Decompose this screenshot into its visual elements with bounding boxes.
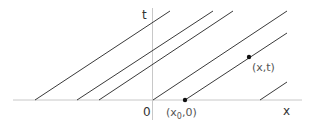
characteristic-line — [77, 11, 213, 100]
characteristic-line — [99, 11, 233, 100]
point-x0-label: (x0,0) — [166, 106, 197, 121]
diagram-canvas: t x 0 (x0,0) (x,t) — [0, 0, 309, 128]
origin-label: 0 — [143, 105, 151, 119]
characteristic-line — [153, 11, 287, 100]
t-axis-label: t — [142, 8, 147, 22]
characteristics-diagram: t x 0 (x0,0) (x,t) — [0, 0, 309, 128]
point-x0 — [183, 98, 187, 102]
characteristic-line — [260, 82, 287, 100]
point-xt — [247, 55, 251, 59]
point-xt-label: (x,t) — [252, 61, 275, 74]
x-axis-label: x — [283, 104, 290, 118]
characteristic-line — [35, 11, 170, 100]
